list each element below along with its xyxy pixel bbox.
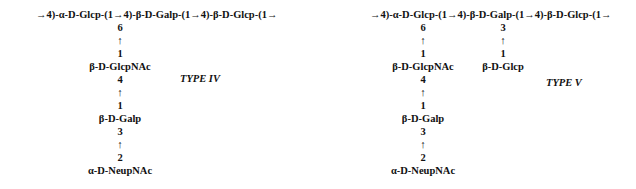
linkage-position: 6: [420, 22, 425, 34]
linkage-position: 6: [117, 22, 122, 34]
type-iv-label: TYPE IV: [180, 73, 220, 85]
backbone-type-iv: →4)-α-D-Glcp-(1→4)-β-D-Galp-(1→4)-β-D-Gl…: [36, 9, 277, 21]
up-arrow-icon: ↑: [117, 86, 123, 98]
anomeric-position: 1: [117, 100, 122, 112]
anomeric-position: 1: [420, 48, 425, 60]
residue-neupnac: α-D-NeupNAc: [391, 165, 455, 177]
residue-glcp: β-D-Glcp: [482, 61, 524, 73]
anomeric-position: 1: [500, 48, 505, 60]
residue-galp: β-D-Galp: [99, 113, 141, 125]
linkage-position: 3: [420, 126, 425, 138]
up-arrow-icon: ↑: [420, 86, 426, 98]
backbone-type-v: →4)-α-D-Glcp-(1→4)-β-D-Galp-(1→4)-β-D-Gl…: [370, 9, 611, 21]
up-arrow-icon: ↑: [500, 34, 506, 46]
type-v-label: TYPE V: [546, 77, 582, 89]
residue-galp: β-D-Galp: [402, 113, 444, 125]
residue-neupnac: α-D-NeupNAc: [88, 165, 152, 177]
anomeric-position: 1: [420, 100, 425, 112]
linkage-position: 4: [117, 74, 122, 86]
up-arrow-icon: ↑: [420, 138, 426, 150]
linkage-position: 3: [117, 126, 122, 138]
linkage-position: 3: [500, 22, 505, 34]
up-arrow-icon: ↑: [117, 138, 123, 150]
linkage-position: 4: [420, 74, 425, 86]
up-arrow-icon: ↑: [420, 34, 426, 46]
up-arrow-icon: ↑: [117, 34, 123, 46]
residue-glcpnac: β-D-GlcpNAc: [89, 61, 151, 73]
anomeric-position: 2: [117, 152, 122, 164]
anomeric-position: 2: [420, 152, 425, 164]
anomeric-position: 1: [117, 48, 122, 60]
residue-glcpnac: β-D-GlcpNAc: [392, 61, 454, 73]
